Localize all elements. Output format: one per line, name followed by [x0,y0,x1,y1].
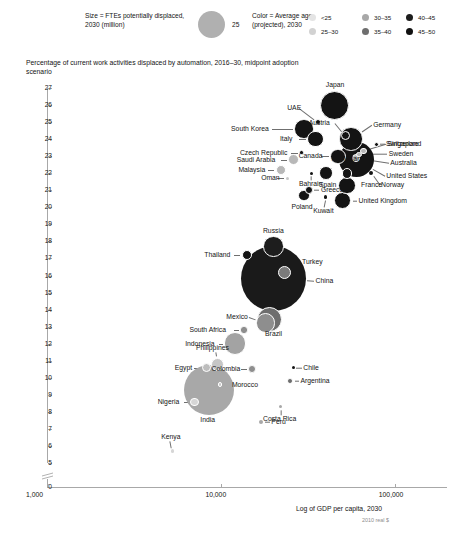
label-russia: Russia [263,227,284,235]
y-axis-tick-label: 9 [34,391,52,398]
label-india: India [200,416,215,424]
label-australia: Australia [390,159,416,167]
label-austria: Austria [309,119,330,127]
y-axis-tick-label-wrap: 22 [24,169,52,178]
y-axis-tick-label-wrap: 15 [24,289,52,298]
y-axis-tick-label: 8 [34,408,52,415]
leader-line [307,281,314,282]
bubble-south-africa[interactable] [240,326,247,333]
label-oman: Oman [261,174,280,182]
leader-line [353,201,357,202]
leader-line [170,441,172,448]
label-sweden: Sweden [389,150,414,158]
leader-line [321,156,329,157]
y-axis-tick-label-wrap: 11 [24,357,52,366]
y-axis-tick-label: 18 [34,237,52,244]
y-axis-tick-label-wrap: 20 [24,203,52,212]
y-axis-tick-label: 15 [34,289,52,296]
bubble-netherlands[interactable] [342,168,353,179]
leader-line [296,368,302,369]
label-poland: Poland [291,203,312,211]
y-axis-tick-label: 14 [34,306,52,313]
bubble-colombia[interactable] [248,365,256,373]
label-thailand: Thailand [204,251,230,259]
bubble-japan[interactable] [320,91,349,120]
label-mexico: Mexico [226,313,248,321]
y-axis-tick-label: 13 [34,323,52,330]
label-singapore: Singapore [388,140,419,148]
y-axis-tick-label: 12 [34,340,52,347]
label-united-states: United States [386,172,427,180]
bubble-saudi-arabia[interactable] [288,154,299,165]
x-axis-title: Log of GDP per capita, 2030 [296,505,382,512]
y-axis-tick-label: 16 [34,272,52,279]
label-canada: Canada [299,152,323,160]
y-axis-tick-label: 27 [34,84,52,91]
leader-line [314,190,319,191]
y-axis-tick-label-wrap: 17 [24,254,52,263]
y-axis-tick-label: 19 [34,220,52,227]
leader-line [281,160,287,161]
label-south-korea: South Korea [231,125,269,133]
bubble-switzerland[interactable] [374,142,379,147]
bubble-norway[interactable] [369,171,373,175]
x-axis-tick-label: 1,000 [26,491,43,498]
y-axis-tick-label-wrap: 14 [24,306,52,315]
bubble-kuwait[interactable] [324,195,327,198]
label-brazil: Brazil [265,330,282,338]
bubble-costa-rica[interactable] [279,405,282,408]
x-axis-tick [48,484,49,487]
leader-line [373,169,385,176]
bubble-morocco[interactable] [218,382,223,387]
bubble-oman[interactable] [286,177,290,181]
y-axis-tick-label: 23 [34,152,52,159]
y-axis-tick-label: 10 [34,374,52,381]
y-axis-tick-label-wrap: 7 [24,425,52,434]
y-axis-tick-label: 17 [34,254,52,261]
axis-break-icon [41,470,55,482]
y-axis-zero-label: 0 [34,483,52,490]
bubble-thailand[interactable] [242,250,252,260]
y-axis-tick-label: 20 [34,203,52,210]
label-kuwait: Kuwait [313,207,333,215]
bubble-bahrain[interactable] [310,172,313,175]
bubble-russia[interactable] [263,236,284,257]
label-netherlands: Netherlands [331,155,368,163]
y-axis-tick-label: 7 [34,425,52,432]
label-france: France [361,181,382,189]
leader-line [234,330,240,331]
bubble-nigeria[interactable] [190,398,198,406]
y-axis-tick-label-wrap: 10 [24,374,52,383]
y-axis-tick-label-wrap: 24 [24,135,52,144]
y-axis-tick-label-wrap: 23 [24,152,52,161]
plot-area: 2726252423222120191817161514131211109876… [0,0,456,536]
bubble-italy[interactable] [307,131,324,148]
y-axis-tick-label-wrap: 21 [24,186,52,195]
leader-line [234,255,240,256]
y-axis-tick-label-wrap: 27 [24,84,52,93]
label-greece: Greece [321,186,343,194]
label-saudi-arabia: Saudi Arabia [237,156,276,164]
label-turkey: Turkey [302,258,323,266]
y-axis-tick-label-wrap: 5 [24,459,52,468]
bubble-kenya[interactable] [171,449,174,452]
bubble-argentina[interactable] [287,378,293,384]
bubble-spain[interactable] [319,166,333,180]
label-malaysia: Malaysia [238,166,265,174]
x-axis-tick-label: 100,000 [379,491,404,498]
y-axis-tick-label-wrap: 13 [24,323,52,332]
y-axis-tick-label: 26 [34,101,52,108]
x-axis-tick-label: 10,000 [205,491,226,498]
y-axis-tick-label: 6 [34,442,52,449]
label-kenya: Kenya [161,433,180,441]
bubble-chile[interactable] [292,366,296,370]
label-nigeria: Nigeria [158,398,180,406]
label-south-africa: South Africa [189,326,226,334]
bubble-turkey[interactable] [278,266,291,279]
label-china: China [316,277,334,285]
label-uae: UAE [287,104,301,112]
leader-line [295,381,299,382]
leader-line [362,125,372,132]
x-axis-tick [221,484,222,487]
label-chile: Chile [303,364,319,372]
